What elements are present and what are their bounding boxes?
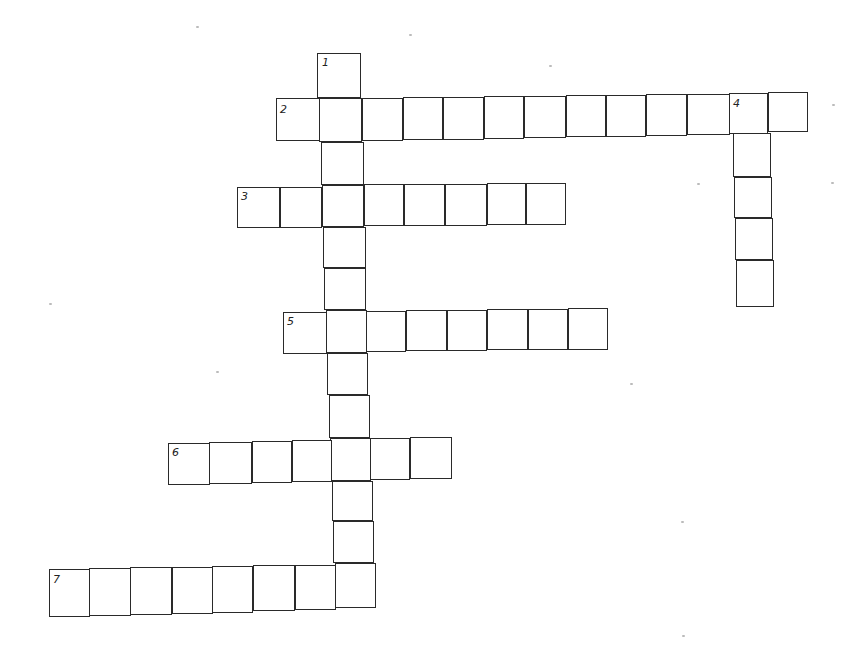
crossword-cell-6-across-2[interactable]	[209, 442, 252, 484]
crossword-cell-6-across-3[interactable]	[252, 441, 292, 483]
paper-speck	[49, 303, 52, 305]
crossword-cell-2-across-11[interactable]	[687, 94, 730, 135]
clue-number-3: 3	[241, 191, 248, 202]
crossword-cell-7-across-3[interactable]	[130, 567, 172, 615]
crossword-cell-2-across-3[interactable]	[362, 98, 403, 141]
crossword-cell-5-across-5[interactable]	[447, 310, 487, 351]
crossword-cell-1-down-7[interactable]	[326, 310, 367, 353]
crossword-cell-3-across-6[interactable]	[445, 184, 487, 226]
crossword-cell-2-across-8[interactable]	[566, 95, 606, 137]
crossword-cell-3-across-8[interactable]	[526, 183, 566, 225]
crossword-cell-6-across-6[interactable]	[370, 438, 410, 480]
paper-speck	[681, 521, 684, 523]
clue-number-4: 4	[733, 98, 740, 109]
crossword-cell-7-across-4[interactable]	[172, 567, 213, 614]
crossword-cell-1-down-13[interactable]	[335, 563, 376, 608]
clue-number-5: 5	[287, 316, 294, 327]
paper-speck	[697, 183, 700, 185]
crossword-cell-3-across-7[interactable]	[487, 183, 526, 225]
clue-number-7: 7	[53, 574, 60, 585]
crossword-cell-1-down-4[interactable]	[322, 185, 364, 227]
crossword-cell-6-across-4[interactable]	[292, 440, 332, 482]
crossword-cell-5-across-3[interactable]	[366, 311, 406, 352]
crossword-cell-2-across-4[interactable]	[403, 97, 443, 140]
crossword-cell-1-down-3[interactable]	[321, 142, 364, 185]
crossword-cell-2-across-9[interactable]	[606, 95, 646, 137]
clue-number-2: 2	[280, 104, 287, 115]
paper-speck	[682, 635, 685, 637]
crossword-cell-1-down-10[interactable]	[330, 438, 371, 481]
crossword-cell-4-down-5[interactable]	[736, 260, 774, 307]
crossword-cell-4-down-3[interactable]	[734, 177, 772, 218]
crossword-cell-7-across-6[interactable]	[253, 565, 295, 611]
crossword-cell-2-across-13[interactable]	[768, 92, 808, 132]
paper-speck	[630, 383, 633, 385]
crossword-cell-3-across-2[interactable]	[280, 187, 322, 228]
paper-speck	[196, 26, 199, 28]
crossword-cell-5-across-4[interactable]	[406, 310, 447, 351]
crossword-cell-2-across-6[interactable]	[484, 96, 524, 139]
crossword-cell-5-across-8[interactable]	[568, 308, 608, 350]
crossword-cell-7-across-7[interactable]	[295, 565, 336, 610]
crossword-cell-5-across-6[interactable]	[487, 309, 528, 350]
paper-speck	[549, 65, 552, 67]
crossword-cell-4-down-2[interactable]	[733, 133, 771, 177]
crossword-cell-2-across-5[interactable]	[443, 97, 484, 140]
crossword-cell-7-across-5[interactable]	[212, 566, 253, 613]
crossword-cell-3-across-5[interactable]	[404, 184, 445, 226]
paper-speck	[831, 182, 834, 184]
crossword-cell-1-down-6[interactable]	[324, 268, 366, 310]
crossword-cell-4-down-4[interactable]	[735, 218, 773, 260]
clue-number-6: 6	[172, 447, 179, 458]
crossword-cell-1-down-8[interactable]	[327, 353, 368, 395]
crossword-cell-7-across-2[interactable]	[89, 568, 131, 616]
crossword-cell-3-across-4[interactable]	[364, 184, 404, 226]
crossword-cell-6-across-7[interactable]	[410, 437, 452, 479]
clue-number-1: 1	[322, 57, 329, 68]
crossword-cell-5-across-7[interactable]	[528, 309, 568, 350]
paper-speck	[216, 371, 219, 373]
paper-speck	[832, 104, 835, 106]
crossword-cell-2-across-7[interactable]	[524, 96, 566, 138]
crossword-cell-1-down-9[interactable]	[329, 395, 370, 438]
crossword-cell-2-across-10[interactable]	[646, 94, 687, 136]
paper-speck	[409, 34, 412, 36]
crossword-grid: 1234567	[0, 0, 860, 650]
crossword-cell-1-down-11[interactable]	[332, 481, 373, 521]
crossword-cell-1-down-5[interactable]	[323, 227, 366, 268]
crossword-cell-1-down-2[interactable]	[319, 98, 362, 142]
crossword-cell-1-down-12[interactable]	[333, 521, 374, 563]
